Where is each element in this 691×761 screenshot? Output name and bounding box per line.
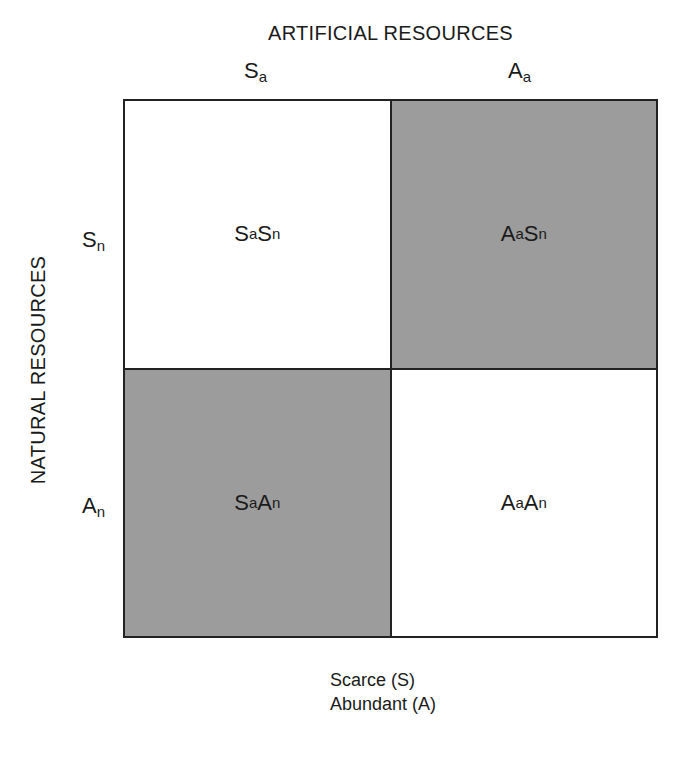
row-label-abundant-natural: An	[82, 493, 105, 519]
column-label-abundant-artificial: Aa	[508, 58, 531, 84]
legend: Scarce (S) Abundant (A)	[330, 668, 436, 716]
column-label-scarce-artificial: Sa	[244, 58, 267, 84]
natural-resources-title: NATURAL RESOURCES	[27, 256, 50, 484]
legend-abundant: Abundant (A)	[330, 692, 436, 716]
resource-matrix: SaSn AaSn SaAn AaAn	[123, 99, 658, 638]
cell-abundant-artificial-abundant-natural: AaAn	[391, 369, 657, 637]
row-label-scarce-natural: Sn	[82, 227, 105, 253]
legend-scarce: Scarce (S)	[330, 668, 436, 692]
cell-scarce-artificial-scarce-natural: SaSn	[125, 101, 391, 369]
artificial-resources-title: ARTIFICIAL RESOURCES	[0, 22, 691, 45]
cell-abundant-artificial-scarce-natural: AaSn	[391, 101, 657, 369]
cell-scarce-artificial-abundant-natural: SaAn	[125, 369, 391, 637]
